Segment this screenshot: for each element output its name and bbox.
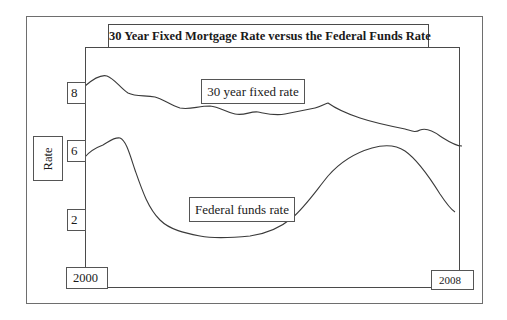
- y-tick-2: 2: [67, 209, 86, 231]
- x-tick-2008: 2008: [431, 270, 474, 290]
- fixed-rate-label: 30 year fixed rate: [201, 79, 305, 104]
- y-axis-label: Rate: [41, 147, 56, 170]
- y-tick-6: 6: [67, 140, 86, 162]
- x-tick-2000: 2000: [66, 267, 108, 289]
- y-tick-8: 8: [67, 82, 86, 104]
- fed-funds-label: Federal funds rate: [189, 197, 295, 222]
- y-axis-label-box: Rate: [33, 136, 63, 181]
- chart-title: 30 Year Fixed Mortgage Rate versus the F…: [108, 24, 429, 48]
